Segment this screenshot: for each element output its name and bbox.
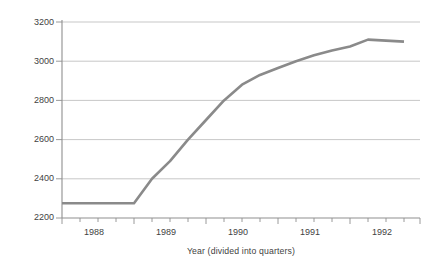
- gridlines: [62, 22, 420, 179]
- plot-area: [0, 0, 442, 269]
- chart-figure: Pesos/dollar 3200 3000 2800 2600 2400 22…: [0, 0, 442, 269]
- y-axis-ticks: [56, 22, 62, 218]
- x-axis-ticks: [62, 218, 420, 224]
